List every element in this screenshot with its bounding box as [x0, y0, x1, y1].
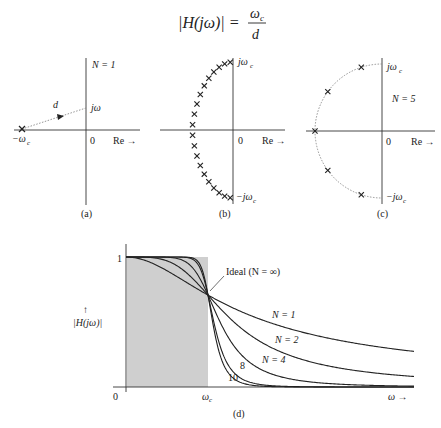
panel-a: N = 1 d jω −ω c 0 Re → (a)	[12, 58, 140, 220]
bottom-label-sub: c	[253, 197, 257, 205]
caption: (b)	[219, 208, 231, 220]
panel-c: jω c N = 5 −jω c 0 Re → (c)	[306, 58, 435, 220]
origin-label: 0	[113, 391, 118, 402]
panel-d: Ideal (N = ∞) 1 0 ω c ω → ↑ |H(jω)| N = …	[73, 244, 414, 420]
y-axis-label: |H(jω)|	[73, 317, 102, 329]
panel-b: jω c −jω c 0 Re → (b)	[160, 56, 286, 220]
pole-cross-icon	[19, 126, 25, 132]
real-axis-label: Re →	[113, 135, 137, 146]
point-label: jω	[89, 102, 101, 113]
top-label-sub: c	[250, 62, 254, 70]
cutoff-label-sub: c	[209, 396, 213, 404]
pole-label-sub: c	[27, 139, 31, 147]
equation-numerator-sub: c	[260, 13, 264, 23]
origin-label: 0	[238, 135, 243, 146]
bottom-label: −jω	[386, 191, 403, 202]
equation: |H(jω)| = ω c d	[178, 6, 266, 42]
bottom-label: −jω	[236, 191, 253, 202]
caption: (a)	[81, 208, 92, 220]
top-label: jω	[236, 56, 248, 67]
origin-label: 0	[386, 136, 391, 147]
origin-label: 0	[90, 135, 95, 146]
curve-label-n4: N = 4	[261, 354, 285, 365]
cutoff-label: ω	[202, 391, 209, 402]
curve-label-n2: N = 2	[274, 334, 298, 345]
y-tick-one: 1	[117, 253, 122, 264]
real-axis-label: Re →	[411, 136, 435, 147]
ideal-passband-region	[127, 257, 208, 387]
equation-denominator: d	[252, 27, 260, 42]
caption: (c)	[377, 208, 388, 220]
pole-label: −ω	[12, 133, 26, 144]
top-label-sub: c	[399, 67, 403, 75]
y-axis-arrow: ↑	[83, 304, 88, 315]
ideal-label: Ideal (N = ∞)	[226, 266, 280, 278]
order-label: N = 1	[91, 59, 115, 70]
caption: (d)	[233, 408, 245, 420]
x-axis-label: ω →	[388, 391, 408, 402]
equation-lhs: |H(jω)| =	[178, 14, 240, 32]
curve-label-n10: 10	[228, 372, 238, 383]
distance-vector	[22, 108, 86, 129]
curve-label-n8: 8	[240, 360, 245, 371]
curve-label-n1: N = 1	[271, 309, 295, 320]
butterworth-figure: |H(jω)| = ω c d N = 1 d jω −ω c 0 Re → (…	[0, 0, 441, 428]
equation-numerator: ω	[250, 6, 260, 21]
ideal-leader-line	[210, 276, 224, 291]
top-label: jω	[385, 61, 397, 72]
real-axis-label: Re →	[262, 135, 286, 146]
distance-label: d	[53, 99, 59, 110]
arrowhead-icon	[57, 114, 64, 120]
order-label: N = 5	[391, 93, 415, 104]
bottom-label-sub: c	[403, 197, 407, 205]
